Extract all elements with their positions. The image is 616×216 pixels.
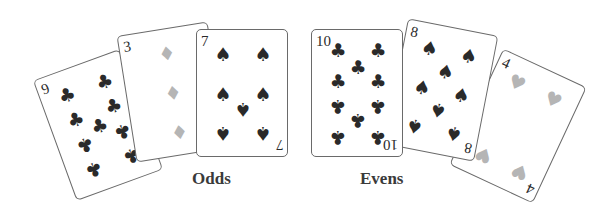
suit-pip-icon: ♠ xyxy=(427,100,448,121)
suit-pip-icon: ♠ xyxy=(419,38,440,59)
suit-pip-icon: ♣ xyxy=(369,129,387,147)
suit-pip-icon: ♣ xyxy=(74,134,97,157)
card-rank-inverted: 4 xyxy=(523,180,536,197)
card-10-of-clubs[interactable]: 10 10 ♣♣♣♣♣♣♣♣♣♣ xyxy=(311,29,403,157)
suit-pip-icon: ♠ xyxy=(459,45,480,66)
card-pips: ♥♥♥♥ xyxy=(504,50,586,88)
suit-pip-icon: ♣ xyxy=(64,108,87,131)
suit-pip-icon: ♣ xyxy=(369,41,387,59)
suit-pip-icon: ♠ xyxy=(404,116,425,137)
suit-pip-icon: ♠ xyxy=(254,45,272,63)
suit-pip-icon: ♥ xyxy=(542,88,566,112)
suit-pip-icon: ♠ xyxy=(234,101,252,119)
suit-pip-icon: ♣ xyxy=(93,70,116,93)
suit-pip-icon: ♣ xyxy=(349,58,367,76)
suit-pip-icon: ♥ xyxy=(508,160,532,184)
suit-pip-icon: ♠ xyxy=(435,61,456,82)
suit-pip-icon: ♣ xyxy=(329,41,347,59)
card-rank: 4 xyxy=(499,55,512,72)
card-rank: 3 xyxy=(122,39,132,55)
suit-pip-icon: ♣ xyxy=(102,94,125,117)
evens-label: Evens xyxy=(360,169,403,189)
suit-pip-icon: ♣ xyxy=(369,72,387,90)
suit-pip-icon: ♣ xyxy=(88,114,111,137)
suit-pip-icon: ♦ xyxy=(157,43,178,64)
card-rank-inverted: 7 xyxy=(276,137,284,152)
suit-pip-icon: ♦ xyxy=(163,83,184,104)
card-rank-inverted: 8 xyxy=(463,140,473,156)
card-7-of-spades[interactable]: 7 7 ♠♠♠♠♠♠♠ xyxy=(196,29,288,157)
suit-pip-icon: ♣ xyxy=(349,112,367,130)
card-pips: ♣♣♣♣♣♣♣♣♣ xyxy=(34,50,119,81)
suit-pip-icon: ♣ xyxy=(329,98,347,116)
suit-pip-icon: ♠ xyxy=(443,124,464,145)
suit-pip-icon: ♣ xyxy=(83,158,106,181)
suit-pip-icon: ♣ xyxy=(329,129,347,147)
suit-pip-icon: ♠ xyxy=(214,125,232,143)
suit-pip-icon: ♠ xyxy=(451,84,472,105)
card-pips: ♦♦♦ xyxy=(118,23,207,37)
odds-label: Odds xyxy=(192,169,231,189)
card-rank: 7 xyxy=(201,34,209,49)
suit-pip-icon: ♦ xyxy=(169,122,190,143)
suit-pip-icon: ♠ xyxy=(214,45,232,63)
card-pips: ♠♠♠♠♠♠♠♠ xyxy=(409,20,497,37)
suit-pip-icon: ♠ xyxy=(412,77,433,98)
suit-pip-icon: ♠ xyxy=(214,85,232,103)
suit-pip-icon: ♣ xyxy=(329,72,347,90)
suit-pip-icon: ♣ xyxy=(55,83,78,106)
suit-pip-icon: ♥ xyxy=(505,71,529,95)
suit-pip-icon: ♣ xyxy=(369,98,387,116)
suit-pip-icon: ♠ xyxy=(254,125,272,143)
card-rank: 9 xyxy=(39,81,51,98)
card-rank: 8 xyxy=(409,24,419,40)
suit-pip-icon: ♠ xyxy=(254,85,272,103)
